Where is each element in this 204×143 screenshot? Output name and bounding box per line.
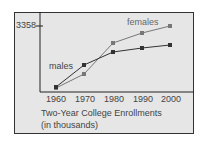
x-tick-1960: 1960	[46, 94, 66, 104]
x-tick-1970: 1970	[75, 94, 95, 104]
x-tick-1990: 1990	[133, 94, 153, 104]
males-label: males	[49, 61, 73, 71]
x-tick-2000: 2000	[161, 94, 181, 104]
series-females	[54, 24, 172, 90]
x-tick-1980: 1980	[104, 94, 124, 104]
chart-subtitle: (in thousands)	[41, 120, 98, 130]
chart-title: Two-Year College Enrollments	[41, 108, 162, 118]
y-tick-label: 3358	[16, 20, 36, 30]
females-label: females	[127, 17, 159, 27]
